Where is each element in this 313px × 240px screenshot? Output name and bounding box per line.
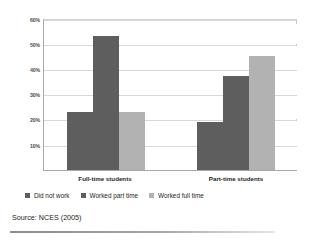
y-axis-label-10: 10%: [30, 143, 40, 149]
plot-area: 60% 50% 40% 30% 20% 10%: [43, 19, 297, 171]
y-axis-label-50: 50%: [30, 42, 40, 48]
legend-item-worked-part-time[interactable]: Worked part time: [81, 192, 139, 199]
legend-swatch-icon-worked-part-time: [81, 193, 86, 198]
bar-full-time-did-not-work[interactable]: [67, 112, 93, 170]
source-note: Source: NCES (2005): [12, 213, 82, 222]
y-axis-label-20: 20%: [30, 117, 40, 123]
bar-part-time-worked-full-time[interactable]: [249, 56, 275, 170]
y-axis-label-40: 40%: [30, 67, 40, 73]
bar-full-time-worked-part-time[interactable]: [93, 36, 119, 170]
legend-label-worked-full-time: Worked full time: [158, 192, 204, 199]
y-axis-label-60: 60%: [30, 17, 40, 23]
x-axis-line: [44, 170, 297, 171]
bottom-divider: [10, 231, 275, 233]
right-edge-tick-20: [296, 119, 297, 121]
y-axis-label-30: 30%: [30, 92, 40, 98]
legend-swatch-icon-did-not-work: [25, 193, 30, 198]
legend-swatch-icon-worked-full-time: [149, 193, 154, 198]
category-label-full-time-students: Full-time students: [78, 175, 131, 182]
bar-group-part-time-students: [197, 19, 275, 170]
legend-item-worked-full-time[interactable]: Worked full time: [149, 192, 204, 199]
chart-figure: 60% 50% 40% 30% 20% 10%: [0, 0, 313, 240]
category-label-part-time-students: Part-time students: [209, 175, 263, 182]
bar-group-full-time-students: [67, 19, 145, 170]
right-edge-tick-50: [296, 44, 297, 46]
chart-legend: Did not work Worked part time Worked ful…: [25, 192, 215, 199]
legend-label-worked-part-time: Worked part time: [90, 192, 139, 199]
right-edge-tick-top: [296, 20, 297, 24]
bar-part-time-worked-part-time[interactable]: [223, 76, 249, 170]
legend-item-did-not-work[interactable]: Did not work: [25, 192, 70, 199]
legend-label-did-not-work: Did not work: [34, 192, 70, 199]
bar-part-time-did-not-work[interactable]: [197, 122, 223, 170]
bar-full-time-worked-full-time[interactable]: [119, 112, 145, 170]
plot-wrapper: 60% 50% 40% 30% 20% 10%: [43, 19, 297, 171]
